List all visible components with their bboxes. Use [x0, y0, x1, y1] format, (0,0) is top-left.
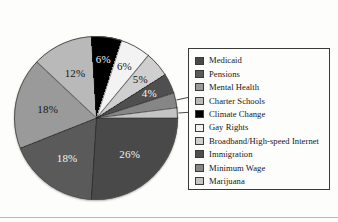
- legend-swatch-icon: [195, 150, 204, 158]
- legend-item[interactable]: Marijuana: [195, 175, 329, 188]
- pie-slice-divider: [97, 118, 179, 119]
- legend-item[interactable]: Climate Change: [195, 108, 329, 121]
- pie-slice-value-label: 18%: [37, 103, 58, 115]
- legend-item[interactable]: Gay Rights: [195, 121, 329, 134]
- legend-item-label: Pensions: [209, 70, 240, 79]
- legend-item[interactable]: Immigration: [195, 148, 329, 161]
- legend-item-label: Climate Change: [209, 110, 265, 119]
- pie-slice-value-label: 18%: [57, 152, 78, 164]
- legend-item-label: Immigration: [209, 150, 253, 159]
- chart-legend: MedicaidPensionsMental HealthCharter Sch…: [188, 48, 330, 190]
- legend-item-label: Charter Schools: [209, 97, 265, 106]
- pie-slice-value-label: 26%: [119, 148, 140, 160]
- legend-item-label: Minimum Wage: [209, 164, 265, 173]
- legend-item-label: Medicaid: [209, 56, 242, 65]
- pie-slice-value-label: 12%: [65, 67, 86, 79]
- legend-swatch-icon: [195, 57, 204, 65]
- legend-item[interactable]: Minimum Wage: [195, 161, 329, 174]
- legend-item[interactable]: Pensions: [195, 67, 329, 80]
- pie-slice-value-label: 6%: [117, 60, 132, 72]
- pie-chart-figure: 26%18%18%12%6%6%5%4% 3%2% MedicaidPensio…: [0, 0, 338, 222]
- legend-swatch-icon: [195, 83, 204, 91]
- legend-swatch-icon: [195, 137, 204, 145]
- legend-swatch-icon: [195, 70, 204, 78]
- legend-item-label: Broadband/High-speed Internet: [209, 137, 319, 146]
- pie-slice-value-label: 6%: [96, 53, 111, 65]
- legend-swatch-icon: [195, 110, 204, 118]
- legend-item[interactable]: Medicaid: [195, 54, 329, 67]
- figure-bottom-rule: [0, 217, 338, 218]
- legend-swatch-icon: [195, 97, 204, 105]
- legend-item[interactable]: Charter Schools: [195, 94, 329, 107]
- pie-slice-value-label: 4%: [142, 87, 157, 99]
- legend-item[interactable]: Broadband/High-speed Internet: [195, 134, 329, 147]
- legend-swatch-icon: [195, 124, 204, 132]
- pie-slice-value-label: 5%: [133, 73, 148, 85]
- legend-swatch-icon: [195, 177, 204, 185]
- legend-item-label: Mental Health: [209, 83, 259, 92]
- legend-item-label: Marijuana: [209, 177, 245, 186]
- pie-chart: 26%18%18%12%6%6%5%4%: [14, 36, 178, 200]
- legend-item[interactable]: Mental Health: [195, 81, 329, 94]
- legend-swatch-icon: [195, 164, 204, 172]
- legend-item-label: Gay Rights: [209, 123, 248, 132]
